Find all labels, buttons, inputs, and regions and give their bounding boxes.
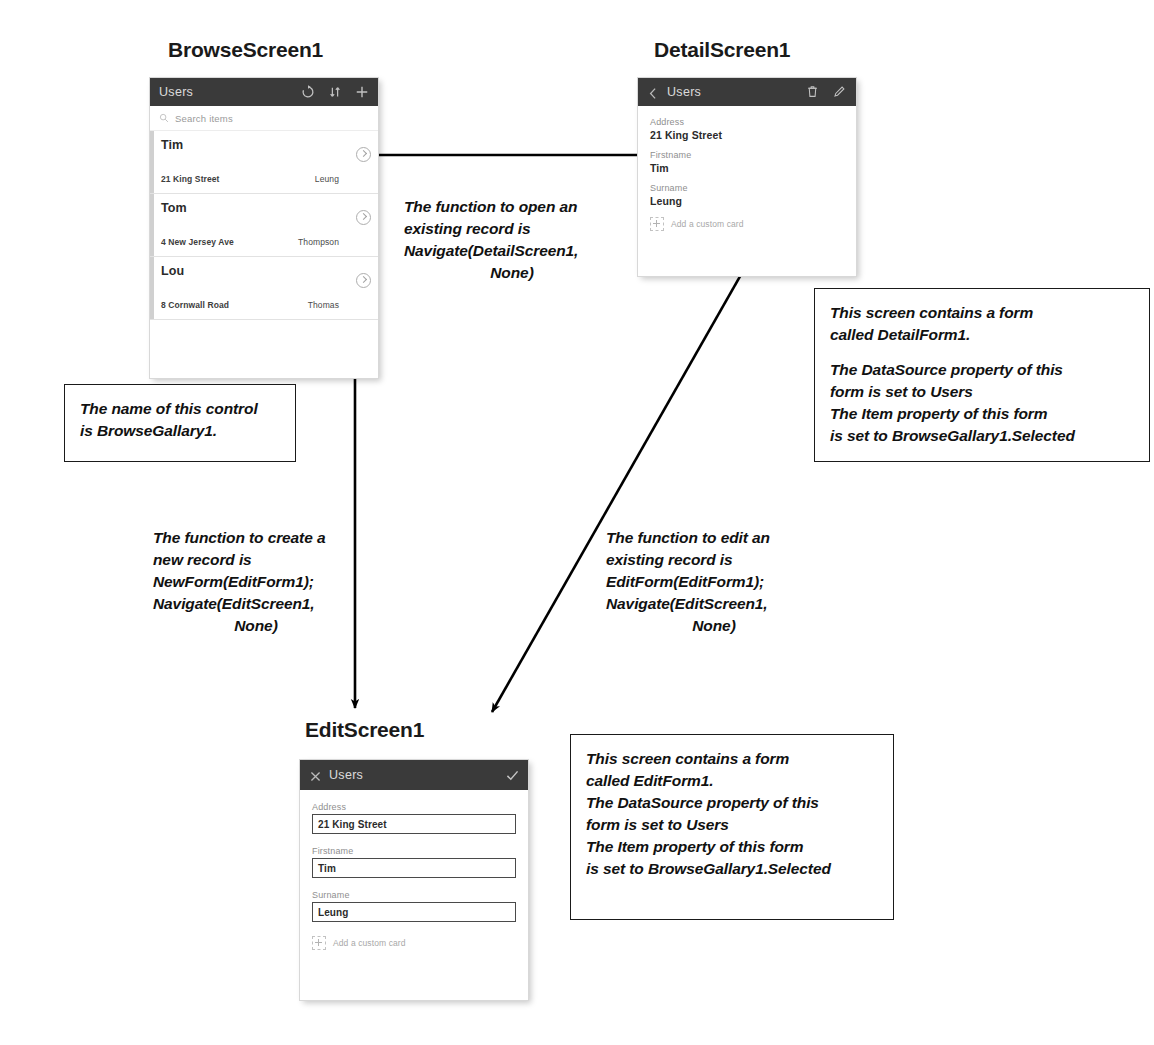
- field-value: 21 King Street: [650, 129, 844, 141]
- row-surname: Leung: [315, 174, 369, 184]
- search-icon: [159, 113, 169, 123]
- field-label: Surname: [312, 890, 516, 900]
- field-label: Firstname: [650, 150, 844, 160]
- annotation-line: Navigate(EditScreen1,: [606, 593, 822, 615]
- plus-icon: [312, 936, 326, 950]
- row-title: Tim: [161, 138, 369, 152]
- annotation-line: existing record is: [606, 549, 822, 571]
- annotation-line: Navigate(DetailScreen1,: [404, 240, 620, 262]
- row-surname: Thompson: [298, 237, 369, 247]
- browse-screen-mockup: Users: [150, 78, 378, 378]
- check-icon[interactable]: [505, 768, 519, 782]
- delete-icon[interactable]: [806, 85, 820, 99]
- edit-icon[interactable]: [833, 85, 847, 99]
- callout-detail-form: This screen contains a form called Detai…: [814, 288, 1150, 462]
- detail-header-title: Users: [667, 85, 701, 99]
- add-custom-card-button[interactable]: Add a custom card: [638, 217, 856, 231]
- callout-line: is set to BrowseGallary1.Selected: [830, 425, 1134, 447]
- add-custom-card-label: Add a custom card: [333, 938, 406, 948]
- edit-field: Address 21 King Street: [300, 802, 528, 834]
- close-icon[interactable]: [309, 769, 322, 782]
- table-row[interactable]: Tom 4 New Jersey Ave Thompson: [150, 194, 378, 257]
- table-row[interactable]: Tim 21 King Street Leung: [150, 131, 378, 194]
- add-custom-card-label: Add a custom card: [671, 219, 744, 229]
- edit-field: Surname Leung: [300, 890, 528, 922]
- sort-icon[interactable]: [328, 85, 342, 99]
- refresh-icon[interactable]: [301, 85, 315, 99]
- annotation-line: The function to edit an: [606, 527, 822, 549]
- callout-line: The DataSource property of this: [586, 792, 878, 814]
- annotation-line: None): [404, 262, 620, 284]
- browse-header-title: Users: [159, 85, 193, 99]
- annotation-line: None): [153, 615, 359, 637]
- search-input[interactable]: Search items: [150, 106, 378, 131]
- annotation-line: NewForm(EditForm1);: [153, 571, 359, 593]
- edit-screen-mockup: Users Address 21 King Street Firstname T…: [300, 760, 528, 1000]
- annotation-line: The function to create a: [153, 527, 359, 549]
- add-icon[interactable]: [355, 85, 369, 99]
- callout-line: The Item property of this form: [830, 403, 1134, 425]
- row-address: 8 Cornwall Road: [161, 300, 229, 310]
- callout-line: This screen contains a form: [830, 302, 1134, 324]
- callout-edit-form: This screen contains a form called EditF…: [570, 734, 894, 920]
- detail-field: Address 21 King Street: [638, 117, 856, 141]
- field-input[interactable]: 21 King Street: [312, 814, 516, 834]
- callout-line: The DataSource property of this: [830, 359, 1134, 381]
- callout-line: The Item property of this form: [586, 836, 878, 858]
- field-label: Address: [312, 802, 516, 812]
- detail-screen-mockup: Users Address 21 King Street Firstname T…: [638, 78, 856, 276]
- row-address: 4 New Jersey Ave: [161, 237, 234, 247]
- annotation-line: new record is: [153, 549, 359, 571]
- field-label: Firstname: [312, 846, 516, 856]
- annotation-new-record: The function to create a new record is N…: [153, 527, 359, 637]
- field-input[interactable]: Tim: [312, 858, 516, 878]
- field-label: Surname: [650, 183, 844, 193]
- edit-header-title: Users: [329, 768, 363, 782]
- annotation-open-record: The function to open an existing record …: [404, 196, 620, 284]
- row-selection-bar: [150, 194, 154, 256]
- annotation-line: existing record is: [404, 218, 620, 240]
- edit-field: Firstname Tim: [300, 846, 528, 878]
- detail-screen-title: DetailScreen1: [654, 38, 790, 62]
- annotation-line: None): [606, 615, 822, 637]
- row-title: Lou: [161, 264, 369, 278]
- callout-line: form is set to Users: [830, 381, 1134, 403]
- plus-icon: [650, 217, 664, 231]
- annotation-line: Navigate(EditScreen1,: [153, 593, 359, 615]
- detail-header-bar: Users: [638, 78, 856, 106]
- callout-line: called EditForm1.: [586, 770, 878, 792]
- callout-line: is set to BrowseGallary1.Selected: [586, 858, 878, 880]
- row-chevron-right-icon[interactable]: [356, 273, 371, 288]
- annotation-line: EditForm(EditForm1);: [606, 571, 822, 593]
- search-placeholder: Search items: [175, 113, 233, 124]
- field-value: Leung: [650, 195, 844, 207]
- detail-field: Surname Leung: [638, 183, 856, 207]
- row-selection-bar: [150, 131, 154, 193]
- callout-line: form is set to Users: [586, 814, 878, 836]
- browse-header-bar: Users: [150, 78, 378, 106]
- table-row[interactable]: Lou 8 Cornwall Road Thomas: [150, 257, 378, 320]
- row-address: 21 King Street: [161, 174, 220, 184]
- browse-screen-title: BrowseScreen1: [168, 38, 323, 62]
- annotation-edit-record: The function to edit an existing record …: [606, 527, 822, 637]
- annotation-line: The function to open an: [404, 196, 620, 218]
- field-value: Tim: [650, 162, 844, 174]
- field-input[interactable]: Leung: [312, 902, 516, 922]
- callout-line: The name of this control: [80, 398, 280, 420]
- add-custom-card-button[interactable]: Add a custom card: [300, 936, 528, 950]
- row-chevron-right-icon[interactable]: [356, 147, 371, 162]
- row-selection-bar: [150, 257, 154, 319]
- callout-line: This screen contains a form: [586, 748, 878, 770]
- row-title: Tom: [161, 201, 369, 215]
- field-label: Address: [650, 117, 844, 127]
- row-surname: Thomas: [308, 300, 369, 310]
- back-icon[interactable]: [647, 86, 660, 99]
- row-chevron-right-icon[interactable]: [356, 210, 371, 225]
- detail-field: Firstname Tim: [638, 150, 856, 174]
- edit-screen-title: EditScreen1: [305, 718, 424, 742]
- callout-gallery-name: The name of this control is BrowseGallar…: [64, 384, 296, 462]
- callout-line: called DetailForm1.: [830, 324, 1134, 346]
- callout-line: is BrowseGallary1.: [80, 420, 280, 442]
- edit-header-bar: Users: [300, 760, 528, 790]
